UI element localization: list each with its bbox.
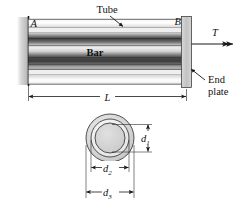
label-torque: T <box>212 27 219 38</box>
label-d2-subscript: 2 <box>108 169 112 177</box>
tube-upper-wall <box>29 19 182 28</box>
fixed-wall-support <box>17 17 28 85</box>
label-d1-subscript: 1 <box>146 139 150 147</box>
label-length: L <box>104 92 111 103</box>
label-bar: Bar <box>87 47 104 58</box>
end-plate-leader-line <box>191 69 205 80</box>
label-end-plate-line2: plate <box>208 86 229 97</box>
label-end-plate-line1: End <box>208 74 226 85</box>
label-tube: Tube <box>96 4 118 15</box>
section-inner-circle <box>95 123 125 153</box>
figure-container: A B Bar Tube T End plate L <box>0 0 242 214</box>
label-d3-subscript: 3 <box>107 193 112 201</box>
tube-lower-wall <box>29 75 182 84</box>
tube-upper-gap <box>29 28 182 33</box>
elevation-view: A B Bar Tube T End plate L <box>17 4 233 103</box>
label-point-b: B <box>175 16 182 27</box>
cross-section-view: d1 d2 d3 <box>86 114 156 201</box>
mechanics-diagram: A B Bar Tube T End plate L <box>0 0 242 214</box>
label-point-a: A <box>30 18 38 29</box>
tube-lower-gap <box>29 70 182 75</box>
end-plate <box>182 17 192 88</box>
